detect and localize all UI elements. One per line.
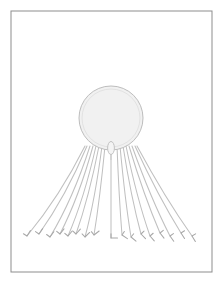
artboard: Jellyfish line drawing bbox=[0, 0, 222, 286]
jellyfish-bell-group bbox=[79, 86, 143, 150]
jellyfish-illustration bbox=[0, 0, 222, 286]
jellyfish-bell bbox=[79, 86, 143, 150]
manubrium-bulb bbox=[108, 142, 115, 155]
